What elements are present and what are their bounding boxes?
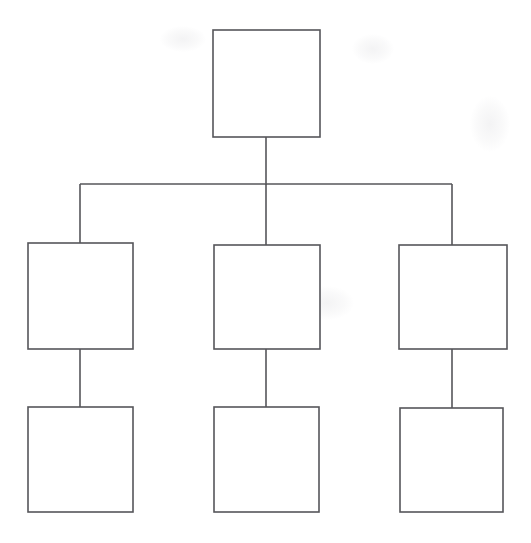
node-box-child-center[interactable] [214,245,320,349]
node-box-leaf-left[interactable] [28,407,133,512]
node-box-root[interactable] [213,30,320,137]
diagram-canvas [0,0,531,543]
node-child-left[interactable] [28,243,133,349]
node-leaf-right[interactable] [400,408,503,512]
node-child-right[interactable] [399,245,507,349]
node-leaf-left[interactable] [28,407,133,512]
node-box-leaf-center[interactable] [214,407,319,512]
node-box-child-left[interactable] [28,243,133,349]
node-box-leaf-right[interactable] [400,408,503,512]
node-root[interactable] [213,30,320,137]
hierarchy-diagram [0,0,531,543]
node-leaf-center[interactable] [214,407,319,512]
node-box-child-right[interactable] [399,245,507,349]
node-layer [28,30,507,512]
node-child-center[interactable] [214,245,320,349]
